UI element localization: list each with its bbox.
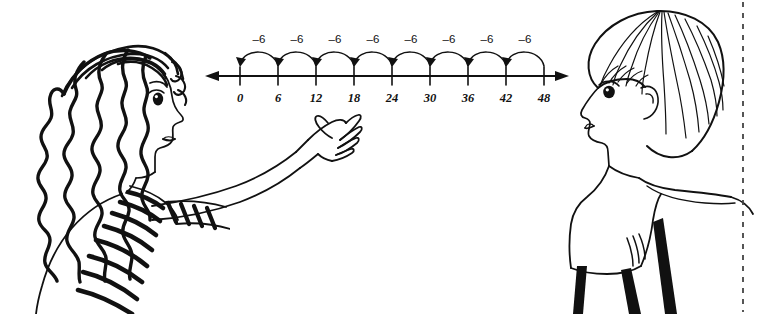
- number-line-diagram: 0 6 12 18 24 30 36 42 48: [195, 30, 595, 120]
- jump-label-4: –6: [367, 33, 380, 45]
- tick-label-30: 30: [423, 91, 437, 105]
- boy-arms: [573, 218, 677, 314]
- jump-label-2: –6: [291, 33, 304, 45]
- tick-label-12: 12: [310, 91, 323, 105]
- jump-label-8: –6: [519, 33, 532, 45]
- girl-eye: [149, 90, 164, 105]
- tick-label-48: 48: [537, 91, 551, 105]
- jump-label-1: –6: [253, 33, 266, 45]
- girl-arm-and-hand: [150, 110, 390, 290]
- page-divider: [733, 0, 753, 314]
- boy-eye: [599, 81, 619, 98]
- tick-label-0: 0: [237, 91, 244, 105]
- number-line-axis: [205, 71, 569, 81]
- boy-hair-strands: [600, 12, 724, 138]
- tick-label-6: 6: [275, 91, 282, 105]
- jump-label-6: –6: [443, 33, 456, 45]
- illustration-scene: 0 6 12 18 24 30 36 42 48: [0, 0, 758, 314]
- tick-label-24: 24: [385, 91, 399, 105]
- boy-illustration: [565, 0, 755, 314]
- jump-label-7: –6: [481, 33, 494, 45]
- jump-label-5: –6: [405, 33, 418, 45]
- boy-hair: [589, 11, 724, 157]
- tick-label-42: 42: [499, 91, 513, 105]
- tick-label-18: 18: [348, 91, 361, 105]
- tick-label-36: 36: [461, 91, 475, 105]
- girl-hair: [38, 50, 150, 282]
- number-line-tick-labels: 0 6 12 18 24 30 36 42 48: [237, 91, 551, 105]
- jump-label-3: –6: [329, 33, 342, 45]
- number-line-jump-labels: –6 –6 –6 –6 –6 –6 –6 –6: [253, 33, 532, 45]
